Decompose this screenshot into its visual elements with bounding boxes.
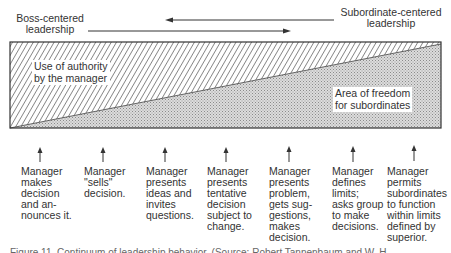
behavior-1: Manager makes decision and an- nounces i… xyxy=(21,166,72,221)
freedom-label-line1: Area of freedom xyxy=(335,88,410,100)
boss-centered-label: Boss-centered leadership xyxy=(14,13,86,35)
behavior-5: Manager presents problem, gets sug- gest… xyxy=(269,166,312,243)
authority-label-line1: Use of authority xyxy=(34,61,108,73)
boss-centered-label-line2: leadership xyxy=(14,24,86,35)
behavior-7: Manager permits subordinates to function… xyxy=(387,166,447,243)
arrow-up-icon xyxy=(38,147,43,153)
behavior-6: Manager defines limits; asks group to ma… xyxy=(332,166,383,232)
arrow-up-icon xyxy=(287,146,292,152)
arrow-up-icon xyxy=(101,147,106,153)
authority-label-line2: by the manager xyxy=(34,73,108,85)
arrow-left-icon xyxy=(165,18,173,23)
figure-caption: Figure 11. Continuum of leadership behav… xyxy=(10,247,389,253)
arrow-up-icon xyxy=(163,147,168,153)
direction-arrows xyxy=(88,18,334,34)
authority-label: Use of authority by the manager xyxy=(32,60,110,85)
freedom-label-line2: for subordinates xyxy=(335,100,410,112)
arrow-right-icon xyxy=(283,29,291,34)
behavior-2: Manager "sells" decision. xyxy=(84,166,125,199)
behavior-3: Manager presents ideas and invites quest… xyxy=(146,166,194,221)
subordinate-centered-label-line2: leadership xyxy=(338,18,444,29)
subordinate-centered-label: Subordinate-centered leadership xyxy=(338,7,444,29)
arrow-up-icon xyxy=(351,146,356,152)
arrow-up-icon xyxy=(224,147,229,153)
behavior-arrows xyxy=(38,145,417,162)
arrow-up-icon xyxy=(412,145,417,151)
behavior-4: Manager presents tentative decision subj… xyxy=(207,166,252,232)
freedom-label: Area of freedom for subordinates xyxy=(333,87,412,112)
